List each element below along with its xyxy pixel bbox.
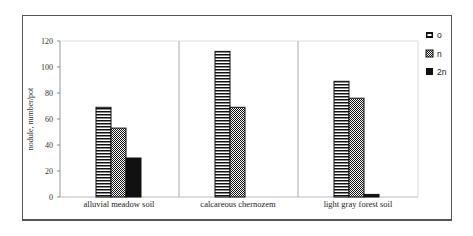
legend-item-2n: 2n: [426, 67, 447, 77]
y-tick-label: 80: [45, 89, 53, 98]
y-axis-label: nodule, number/pot: [26, 87, 35, 150]
legend-swatch-checker-icon: [426, 50, 433, 57]
x-category-label: alluvial meadow soil: [84, 199, 155, 209]
legend-item-n: n: [426, 49, 442, 59]
bar-n-1: [230, 107, 245, 197]
x-category-label: light gray forest soil: [324, 199, 393, 209]
y-tick-label: 100: [41, 63, 53, 72]
bar-n-2: [349, 98, 364, 197]
chart: 0 20 40 60 80 100 120 nodule, number/pot…: [0, 0, 473, 236]
legend-label: o: [437, 30, 442, 40]
bar-o-2: [334, 81, 349, 197]
bar-n-0: [111, 128, 126, 197]
y-tick-label: 0: [49, 193, 53, 202]
y-tick-label: 40: [45, 141, 53, 150]
bar-o-1: [215, 51, 230, 197]
legend-item-o: o: [426, 30, 442, 40]
x-category-label: calcareous chernozem: [200, 199, 276, 209]
bar-o-0: [96, 107, 111, 197]
y-tick-label: 60: [45, 115, 53, 124]
legend-label: 2n: [437, 67, 447, 77]
bar-2n-2: [364, 194, 379, 197]
y-tick-label: 120: [41, 37, 53, 46]
y-axis-ticks: 0 20 40 60 80 100 120: [41, 37, 60, 202]
bars: [96, 51, 379, 197]
bar-2n-0: [126, 158, 141, 197]
y-tick-label: 20: [45, 167, 53, 176]
legend-swatch-solid-icon: [426, 68, 433, 75]
legend: o n 2n: [426, 30, 447, 77]
legend-label: n: [437, 49, 442, 59]
